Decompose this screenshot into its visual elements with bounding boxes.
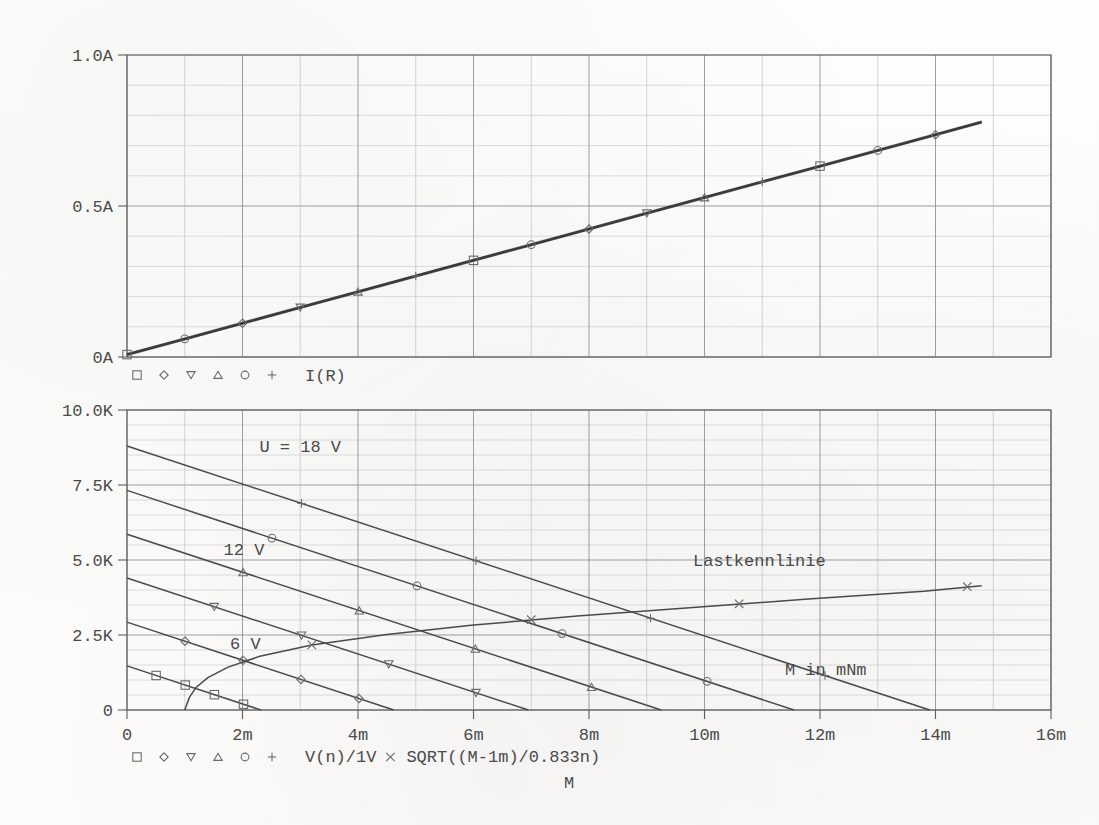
bottom-x-tick-8: 16m [1036,726,1067,745]
bottom-y-tick-0: 0 [103,702,113,721]
axes-bottom [118,410,1051,719]
annotation-1: 12 V [224,541,266,560]
top-y-tick-0A: 0A [93,349,114,368]
trace-lastkennlinie [185,586,982,710]
bottom-speed-chart: 02.5K5.0K7.5K10.0K02m4m6m8m10m12m14m16mU… [0,395,1099,825]
legend-marker-cross [386,753,394,761]
bottom-x-tick-7: 14m [920,726,951,745]
bottom-x-tick-1: 2m [232,726,252,745]
legend-marker-diamond [160,371,168,379]
bottom-x-tick-2: 4m [348,726,368,745]
bottom-x-tick-4: 8m [579,726,599,745]
top-y-tick-0.5A: 0.5A [72,198,114,217]
legend-marker-plus [268,753,276,761]
bottom-x-axis-title: M [564,774,574,793]
legend-marker-triangle-up [214,371,222,378]
legend-marker-diamond [160,753,168,761]
bottom-legend-label-2: SQRT((M-1m)/0.833n) [406,748,600,767]
bottom-data-marker [297,499,305,507]
trace-u-12-v [127,534,661,710]
bottom-x-tick-6: 12m [805,726,836,745]
legend-marker-square [133,371,141,379]
legend-marker-square [133,753,141,761]
top-data-marker [412,272,420,280]
annotation-4: M in mNm [785,661,867,680]
bottom-y-tick-4: 10.0K [62,402,114,421]
legend-marker-triangle-down [187,372,195,379]
trace-u-15-v [127,490,794,710]
trace-u-9-v [127,578,528,710]
legend-marker-plus [268,371,276,379]
motor-characteristic-figure: 0A0.5A1.0AI(R) 02.5K5.0K7.5K10.0K02m4m6m… [0,0,1099,825]
grid-top [127,55,1051,357]
bottom-x-tick-0: 0 [122,726,132,745]
bottom-y-tick-1: 2.5K [72,627,114,646]
bottom-data-marker [472,557,480,565]
bottom-data-marker [646,614,654,622]
legend-marker-circle [241,371,249,379]
bottom-x-tick-5: 10m [689,726,720,745]
legend-marker-triangle-down [187,754,195,761]
legend-marker-circle [241,753,249,761]
bottom-x-tick-3: 6m [463,726,483,745]
annotation-2: 6 V [230,635,261,654]
top-trace-group [123,121,982,359]
legend-marker-triangle-up [214,753,222,760]
top-current-chart: 0A0.5A1.0AI(R) [0,0,1099,400]
top-legend-label: I(R) [305,367,346,386]
top-y-tick-1.0A: 1.0A [72,47,114,66]
top-data-marker [758,178,766,186]
annotation-0: U = 18 V [259,438,341,457]
annotation-3: Lastkennlinie [693,552,826,571]
bottom-y-tick-3: 7.5K [72,477,114,496]
bottom-legend-label-1: V(n)/1V [305,748,377,767]
trace-I-R [127,122,982,355]
trace-u-3-v [127,666,261,710]
bottom-y-tick-2: 5.0K [72,552,114,571]
top-legend [133,371,276,379]
